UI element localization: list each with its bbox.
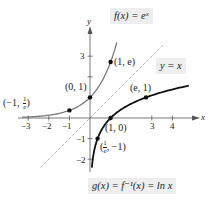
x-axis-label: x — [201, 113, 205, 122]
y-axis-label: y — [87, 17, 91, 26]
y-axis-arrow-icon — [88, 26, 93, 34]
x-tick-label: −3 — [21, 122, 31, 131]
point-label-1-e: (1, e) — [114, 57, 135, 67]
point-label-e-1: (e, 1) — [130, 83, 151, 93]
point-label-neg1: (−1, 1 e ) — [3, 96, 30, 111]
y-tick-label: 3 — [80, 52, 85, 61]
point-label-neg1-open: (−1, — [3, 97, 19, 108]
y-tick-label: −2 — [76, 156, 86, 165]
point-label-neg1-close: ) — [26, 97, 29, 108]
point-label-inv: ( 1 e , −1) — [100, 140, 126, 155]
point-label-1-0: (1, 0) — [105, 123, 127, 133]
x-tick-label: −1 — [62, 122, 72, 131]
g-label: g(x) = f⁻¹(x) = ln x — [88, 178, 176, 194]
point-label-0-1: (0, 1) — [65, 82, 87, 92]
f-label: f(x) = eˣ — [110, 8, 153, 24]
chart-canvas — [0, 0, 211, 204]
identity-label: y = x — [156, 58, 186, 74]
y-tick-label: −1 — [76, 135, 86, 144]
x-tick-label: 3 — [150, 122, 155, 131]
x-axis-arrow-icon — [192, 116, 200, 121]
g-label-text: g(x) = f⁻¹(x) = ln x — [92, 180, 172, 191]
x-tick-label: −2 — [42, 122, 52, 131]
point-label-1-e-text: (1, e) — [114, 56, 135, 67]
point-label-inv-rest: , −1) — [107, 141, 126, 152]
x-tick-label: 4 — [170, 122, 175, 131]
